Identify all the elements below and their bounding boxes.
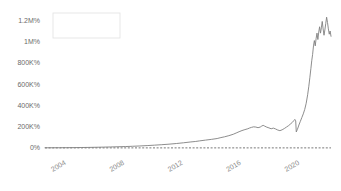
- legend-box[interactable]: [53, 13, 120, 38]
- y-tick-label: 600K%: [17, 81, 40, 88]
- y-tick-label: 1.2M%: [18, 17, 40, 24]
- line-chart: 0%200K%400K%600K%800K%1M%1.2M% 200420082…: [0, 0, 341, 191]
- y-tick-label: 0%: [30, 144, 40, 151]
- y-tick-label: 1M%: [24, 38, 40, 45]
- y-tick-label: 200K%: [17, 123, 40, 130]
- y-tick-label: 400K%: [17, 102, 40, 109]
- chart-container: 0%200K%400K%600K%800K%1M%1.2M% 200420082…: [0, 0, 341, 191]
- y-tick-label: 800K%: [17, 59, 40, 66]
